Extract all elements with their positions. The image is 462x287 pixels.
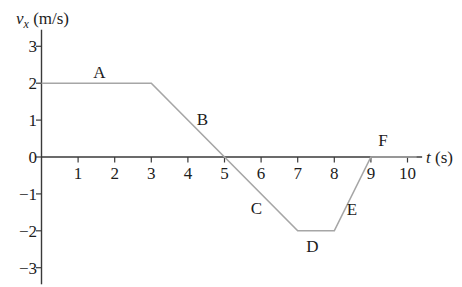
x-tick-label-8: 8 <box>330 164 339 183</box>
velocity-time-graph: 12345678910−3−2−10123vx (m/s)t (s)ABCDEF <box>0 0 462 287</box>
x-tick-label-4: 4 <box>184 164 193 183</box>
x-axis-title: t (s) <box>426 148 453 167</box>
y-tick-label-−2: −2 <box>19 222 37 241</box>
segment-label-E: E <box>347 200 357 219</box>
velocity-time-figure: 12345678910−3−2−10123vx (m/s)t (s)ABCDEF <box>0 0 462 287</box>
y-tick-label-1: 1 <box>29 111 38 130</box>
y-tick-label-−1: −1 <box>19 185 37 204</box>
x-tick-label-2: 2 <box>110 164 119 183</box>
segment-label-B: B <box>197 110 208 129</box>
segment-label-A: A <box>93 63 106 82</box>
segment-label-F: F <box>378 131 387 150</box>
segment-label-C: C <box>251 199 262 218</box>
segment-label-D: D <box>306 237 318 256</box>
x-tick-label-7: 7 <box>293 164 302 183</box>
y-tick-label-3: 3 <box>29 37 38 56</box>
y-tick-label-0: 0 <box>29 148 38 167</box>
x-tick-label-10: 10 <box>399 164 416 183</box>
y-tick-label-−3: −3 <box>19 259 37 278</box>
y-tick-label-2: 2 <box>29 74 38 93</box>
x-tick-label-6: 6 <box>257 164 266 183</box>
x-tick-label-3: 3 <box>147 164 156 183</box>
x-tick-label-5: 5 <box>220 164 229 183</box>
x-tick-label-9: 9 <box>367 164 376 183</box>
y-axis-title: vx (m/s) <box>16 9 69 31</box>
x-tick-label-1: 1 <box>74 164 83 183</box>
